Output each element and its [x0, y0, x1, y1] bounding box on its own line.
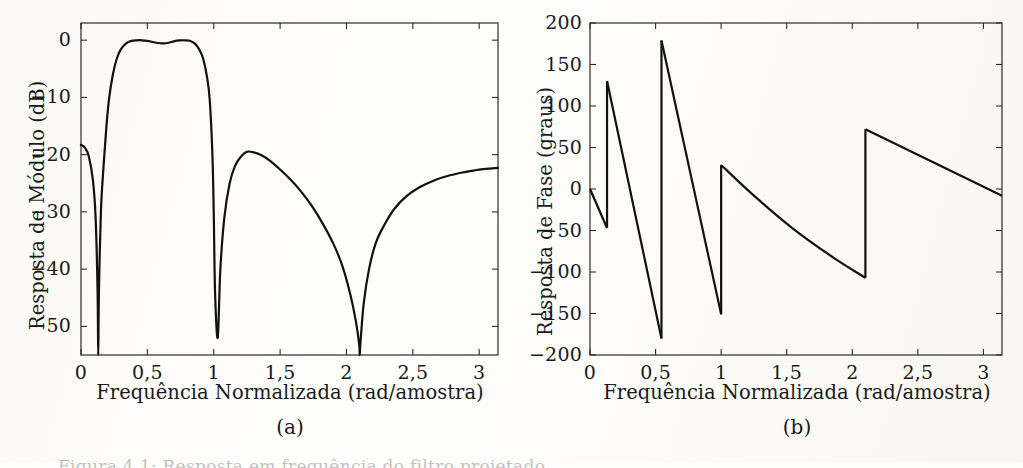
y-tick-label: −200: [520, 343, 582, 365]
y-tick-label: −150: [520, 302, 582, 324]
y-tick-label: −30: [9, 200, 71, 222]
x-tick-label: 0,5: [117, 361, 177, 383]
magnitude-x-axis-label: Frequência Normalizada (rad/amostra): [60, 381, 520, 404]
y-tick-label: −20: [9, 143, 71, 165]
y-tick-label: −50: [520, 219, 582, 241]
y-tick-label: 0: [9, 28, 71, 50]
x-tick-label: 2,5: [383, 361, 443, 383]
figure-bottom-caption: Figura 4.1: Resposta em frequência do fi…: [58, 456, 545, 468]
phase-y-axis-label: Resposta de Fase (graus): [534, 87, 557, 336]
x-tick-label: 0: [51, 361, 111, 383]
magnitude-plot-frame: [81, 23, 498, 355]
x-tick-label: 1: [184, 361, 244, 383]
x-tick-label: 3: [449, 361, 509, 383]
y-tick-label: −100: [520, 260, 582, 282]
phase-curve-segment: [721, 165, 865, 278]
x-tick-label: 2,5: [888, 361, 948, 383]
x-tick-label: 3: [953, 361, 1013, 383]
y-tick-label: −10: [9, 85, 71, 107]
x-tick-label: 1: [691, 361, 751, 383]
x-tick-label: 1,5: [757, 361, 817, 383]
y-tick-label: 150: [520, 53, 582, 75]
phase-x-axis-label: Frequência Normalizada (rad/amostra): [567, 381, 1023, 404]
y-tick-label: 100: [520, 94, 582, 116]
phase-curve-segment: [865, 129, 1002, 195]
panel-magnitude-response: Resposta de Módulo (dB) Frequência Norma…: [0, 0, 511, 462]
phase-curve-segment: [607, 81, 661, 338]
phase-curve-segment: [661, 40, 721, 314]
phase-curve-segment: [590, 189, 607, 228]
x-tick-label: 0,5: [626, 361, 686, 383]
magnitude-tick-marks: [81, 23, 498, 355]
x-tick-label: 1,5: [250, 361, 310, 383]
x-tick-label: 2: [316, 361, 376, 383]
y-tick-label: −40: [9, 257, 71, 279]
phase-plot-frame: [590, 23, 1002, 355]
phase-tick-marks: [590, 23, 1002, 355]
magnitude-subcaption: (a): [190, 415, 390, 439]
panel-phase-response: Resposta de Fase (graus) Frequência Norm…: [512, 0, 1023, 462]
y-tick-label: 50: [520, 136, 582, 158]
phase-subcaption: (b): [697, 415, 897, 439]
y-tick-label: −50: [9, 314, 71, 336]
phase-curve: [590, 40, 1002, 338]
magnitude-curve: [81, 40, 498, 355]
y-tick-label: 200: [520, 11, 582, 33]
y-tick-label: 0: [520, 177, 582, 199]
x-tick-label: 2: [822, 361, 882, 383]
